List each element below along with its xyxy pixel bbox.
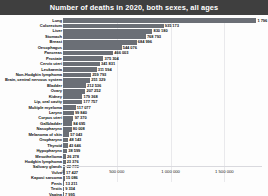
bar-value-label: 466 003	[113, 50, 128, 55]
bar-row: 97 370	[63, 116, 262, 121]
category-label: Penis	[51, 181, 62, 186]
bar-value-label: 212 536	[86, 83, 101, 88]
bar-row: 26 278	[63, 154, 262, 159]
x-axis-tick-label: 500 000	[109, 169, 124, 174]
bar-row: 38 599	[63, 149, 262, 154]
bar-value-label: 830 180	[152, 28, 167, 33]
bar-row: 117 077	[63, 105, 262, 110]
bar-row: 830 180	[63, 29, 262, 34]
bar	[63, 111, 74, 116]
category-label: Salivary glands	[33, 164, 62, 169]
bar-value-label: 23 376	[66, 159, 79, 164]
category-label: Vulva	[51, 170, 62, 175]
bar-row: 57 043	[63, 132, 262, 137]
chart-title-bar: Number of deaths in 2020, both sexes, al…	[0, 0, 268, 15]
bar-value-label: 375 304	[103, 56, 118, 61]
category-label: Hypopharynx	[36, 148, 62, 153]
x-axis-tick-label: 0	[62, 169, 64, 174]
bar-value-label: 251 329	[90, 77, 105, 82]
category-label: Non-Hodgkin lymphoma	[16, 72, 62, 77]
bar-value-label: 177 757	[82, 99, 97, 104]
bar-value-label: 84 695	[72, 121, 85, 126]
bar-value-label: 97 370	[73, 115, 86, 120]
bar-value-label: 117 077	[76, 105, 91, 110]
bar	[63, 24, 164, 29]
bar-row: 23 376	[63, 159, 262, 164]
x-axis-tick-label: 1 000 000	[161, 169, 180, 174]
bar-row: 80 008	[63, 127, 262, 132]
category-label: Multiple myeloma	[28, 105, 62, 110]
bar-value-label: 341 831	[100, 61, 115, 66]
bar	[63, 56, 103, 61]
x-axis: 0500 0001 000 0001 500 000	[63, 168, 262, 180]
bar-row: 684 996	[63, 40, 262, 45]
bar-row: 341 831	[63, 62, 262, 67]
category-label: Oropharynx	[39, 137, 62, 142]
bar-value-label: 38 599	[67, 148, 80, 153]
bar-value-label: 13 211	[64, 181, 77, 186]
category-label: Mesothelioma	[35, 154, 62, 159]
bar-value-label: 179 368	[82, 94, 97, 99]
category-label: Brain, central nervous system	[5, 77, 62, 82]
page-title: Number of deaths in 2020, both sexes, al…	[50, 3, 218, 12]
bar-row: 375 304	[63, 56, 262, 61]
bar-value-label: 7 995	[64, 192, 75, 196]
category-label: Testis	[51, 186, 62, 191]
bar-value-label: 311 594	[97, 67, 112, 72]
bar-row: 99 840	[63, 110, 262, 115]
bar	[63, 83, 86, 88]
category-label: Nasopharynx	[37, 126, 62, 131]
x-axis-tick-label: 1 500 000	[215, 169, 234, 174]
category-label: Gallbladder	[40, 121, 62, 126]
bar-value-label: 57 043	[69, 132, 82, 137]
bar	[63, 34, 146, 39]
category-label: Hodgkin lymphoma	[25, 159, 62, 164]
category-label: Vagina	[49, 192, 62, 196]
bar	[63, 62, 100, 67]
bar-row: 7 995	[63, 192, 262, 196]
category-label: Kaposi sarcoma	[31, 175, 62, 180]
bar-value-label: 207 252	[85, 88, 100, 93]
category-label: Colorectum	[40, 23, 62, 28]
bar-value-label: 9 334	[64, 186, 75, 191]
bar-row: 177 757	[63, 100, 262, 105]
bar	[63, 73, 91, 78]
category-label: Breast	[50, 39, 62, 44]
bar-row: 13 211	[63, 181, 262, 186]
bar-row: 768 793	[63, 34, 262, 39]
bar-row: 544 076	[63, 45, 262, 50]
bar-value-label: 48 143	[68, 137, 81, 142]
bar-value-label: 935 173	[164, 23, 179, 28]
x-axis-baseline	[63, 166, 262, 167]
bar-value-label: 1 796 144	[256, 18, 268, 23]
bar-row: 466 003	[63, 51, 262, 56]
bar-row: 48 143	[63, 138, 262, 143]
bar-value-label: 544 076	[122, 45, 137, 50]
bar	[63, 94, 82, 99]
bar-value-label: 768 793	[146, 34, 161, 39]
bar-value-label: 43 646	[68, 143, 81, 148]
category-label: Pancreas	[44, 50, 62, 55]
bar-value-label: 259 793	[91, 72, 106, 77]
cancer-mortality-bar-chart: Number of deaths in 2020, both sexes, al…	[0, 0, 268, 196]
bar	[63, 29, 152, 34]
bar-value-label: 80 008	[72, 126, 85, 131]
bar-row: 43 646	[63, 143, 262, 148]
category-label: Lip, oral cavity	[34, 99, 62, 104]
bar-value-label: 26 278	[66, 154, 79, 159]
category-label: Stomach	[45, 34, 62, 39]
bars-column: 1 796 144935 173830 180768 793684 996544…	[63, 18, 262, 182]
category-label: Larynx	[49, 110, 62, 115]
category-label-row: Vagina	[0, 192, 62, 196]
category-label: Cervix uteri	[40, 61, 62, 66]
category-label: Corpus uteri	[38, 115, 62, 120]
category-label: Prostate	[46, 56, 62, 61]
bar-row: 84 695	[63, 121, 262, 126]
bar-value-label: 99 840	[74, 110, 87, 115]
bar-row: 9 334	[63, 187, 262, 192]
category-label: Kidney	[49, 94, 62, 99]
category-label: Lung	[52, 18, 62, 23]
bar-row: 1 796 144	[63, 18, 262, 23]
category-label: Melanoma of skin	[28, 132, 62, 137]
bar	[63, 18, 256, 23]
